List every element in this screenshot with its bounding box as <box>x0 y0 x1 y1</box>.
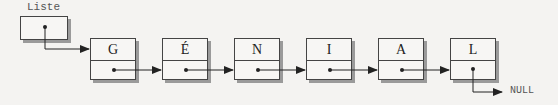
null-label: NULL <box>510 85 534 96</box>
arrow-icon <box>45 27 89 49</box>
pointer-arrows <box>0 0 558 105</box>
linked-list-diagram: Liste G É N I A L <box>0 0 558 105</box>
arrow-icon <box>473 69 502 92</box>
